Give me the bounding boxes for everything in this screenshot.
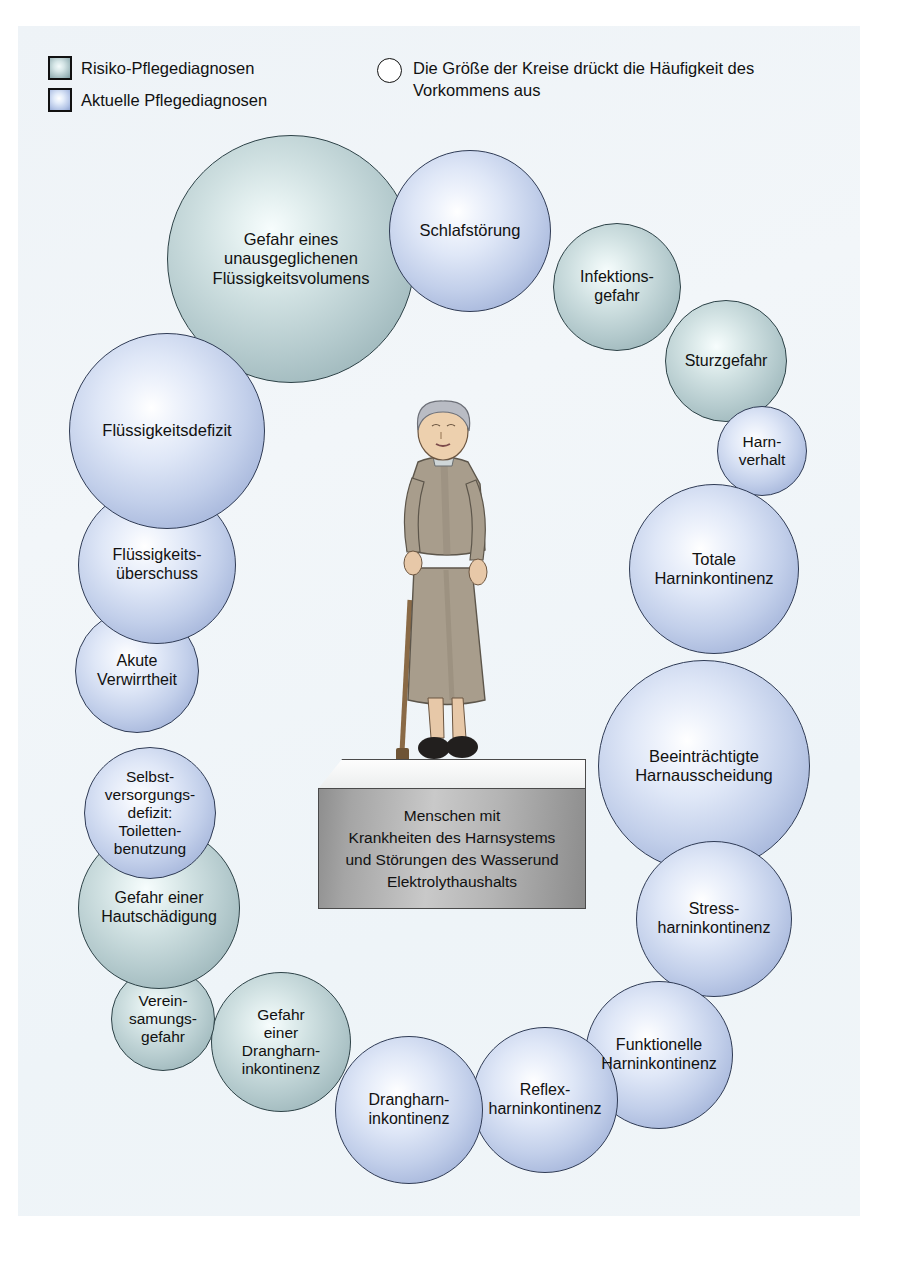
legend-label-aktuelle: Aktuelle Pflegediagnosen <box>81 91 267 110</box>
bubble-actual[interactable]: Harn- verhalt <box>717 406 807 496</box>
circle-outline-icon <box>377 58 402 83</box>
bubble-actual[interactable]: Beeinträchtigte Harnausscheidung <box>598 660 810 872</box>
bubble-label: Totale Harninkontinenz <box>650 550 777 588</box>
legend-size-note: Die Größe der Kreise drückt die Häufigke… <box>413 58 754 102</box>
bubble-label: Gefahr eines unausgeglichenen Flüssigkei… <box>209 230 374 287</box>
bubble-label: Flüssigkeitsdefizit <box>98 421 235 440</box>
bubble-label: Selbst- versorgungs- defizit: Toiletten-… <box>101 768 199 858</box>
bubble-actual[interactable]: Schlafstörung <box>389 150 551 312</box>
bubble-risk[interactable]: Gefahr einer Drangharn- inkontinenz <box>211 972 351 1112</box>
bubble-risk[interactable]: Sturzgefahr <box>665 300 787 422</box>
bubble-label: Gefahr einer Hautschädigung <box>97 889 221 926</box>
elderly-woman-illustration <box>352 400 532 775</box>
legend-item-size-note: Die Größe der Kreise drückt die Häufigke… <box>377 58 754 102</box>
bubble-label: Verein- samungs- gefahr <box>125 992 201 1046</box>
figure-page: Risiko-Pflegediagnosen Aktuelle Pflegedi… <box>0 0 898 1277</box>
pedestal-front-face: Menschen mit Krankheiten des Harnsystems… <box>318 788 586 909</box>
bubble-label: Akute Verwirrtheit <box>93 652 181 689</box>
bubble-actual[interactable]: Flüssigkeitsdefizit <box>69 333 265 529</box>
bubble-label: Schlafstörung <box>416 221 525 240</box>
risk-swatch-icon <box>48 56 72 80</box>
bubble-actual[interactable]: Selbst- versorgungs- defizit: Toiletten-… <box>84 747 216 879</box>
bubble-label: Harn- verhalt <box>735 433 790 469</box>
bubble-label: Flüssigkeits- überschuss <box>109 546 206 583</box>
center-label: Menschen mit Krankheiten des Harnsystems… <box>345 805 558 893</box>
actual-swatch-icon <box>48 88 72 112</box>
bubble-label: Infektions- gefahr <box>576 268 658 305</box>
bubble-label: Gefahr einer Drangharn- inkontinenz <box>238 1006 324 1078</box>
bubble-risk[interactable]: Infektions- gefahr <box>553 223 681 351</box>
pedestal-top-face <box>318 759 586 789</box>
bubble-actual[interactable]: Drangharn- inkontinenz <box>335 1036 483 1184</box>
bubble-actual[interactable]: Totale Harninkontinenz <box>629 484 799 654</box>
legend-label-risiko: Risiko-Pflegediagnosen <box>81 59 254 78</box>
bubble-actual[interactable]: Reflex- harninkontinenz <box>472 1027 618 1173</box>
legend-size-note-line2: Vorkommens aus <box>413 81 540 99</box>
legend-item-risiko: Risiko-Pflegediagnosen <box>48 56 254 80</box>
bubble-label: Reflex- harninkontinenz <box>485 1081 606 1118</box>
pedestal: Menschen mit Krankheiten des Harnsystems… <box>318 759 586 909</box>
bubble-label: Beeinträchtigte Harnausscheidung <box>631 747 777 785</box>
bubble-actual[interactable]: Stress- harninkontinenz <box>636 841 792 997</box>
bubble-label: Funktionelle Harninkontinenz <box>597 1036 721 1073</box>
bubble-label: Stress- harninkontinenz <box>654 900 775 937</box>
bubble-label: Sturzgefahr <box>681 352 772 371</box>
legend-size-note-line1: Die Größe der Kreise drückt die Häufigke… <box>413 59 754 77</box>
bubble-label: Drangharn- inkontinenz <box>365 1091 454 1128</box>
legend-item-aktuelle: Aktuelle Pflegediagnosen <box>48 88 267 112</box>
